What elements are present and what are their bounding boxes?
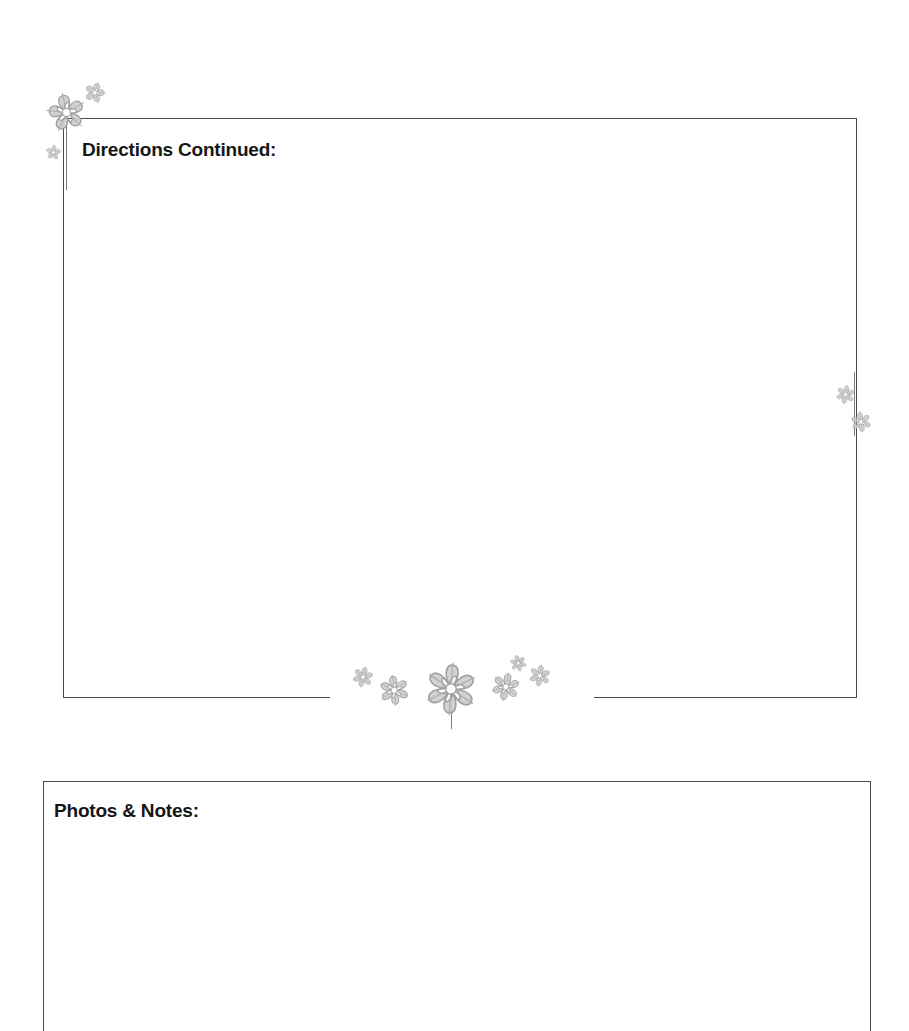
stem-right-border (854, 372, 855, 436)
box1-bottom-border-left (63, 697, 330, 698)
directions-continued-writing-area[interactable] (64, 166, 856, 696)
photos-notes-writing-area[interactable] (44, 828, 870, 990)
box1-top-border (63, 118, 857, 119)
directions-continued-heading: Directions Continued: (82, 139, 276, 161)
box2-top-border (43, 781, 871, 782)
stem-bottom-large (451, 689, 452, 729)
box1-bottom-border-right (594, 697, 857, 698)
photos-notes-heading: Photos & Notes: (54, 800, 199, 822)
box2-right-border (870, 781, 871, 1031)
box1-right-border (856, 118, 857, 698)
flower-top-left-small-icon (71, 69, 118, 116)
stem-top-left (66, 118, 67, 190)
